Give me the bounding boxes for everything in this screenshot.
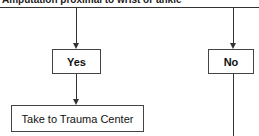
connector-to-no	[233, 7, 234, 43]
criterion-title: Amputation proximal to wrist or ankle	[2, 0, 181, 5]
connector-to-yes	[76, 7, 77, 43]
yes-box: Yes	[52, 49, 101, 74]
no-label: No	[224, 56, 239, 68]
no-box: No	[208, 49, 254, 74]
connector-no-down	[233, 74, 234, 136]
trauma-center-box: Take to Trauma Center	[11, 105, 144, 132]
yes-label: Yes	[67, 56, 86, 68]
connector-yes-to-trauma	[76, 74, 77, 99]
connector-top-horizontal	[0, 7, 259, 8]
trauma-center-label: Take to Trauma Center	[22, 113, 134, 125]
